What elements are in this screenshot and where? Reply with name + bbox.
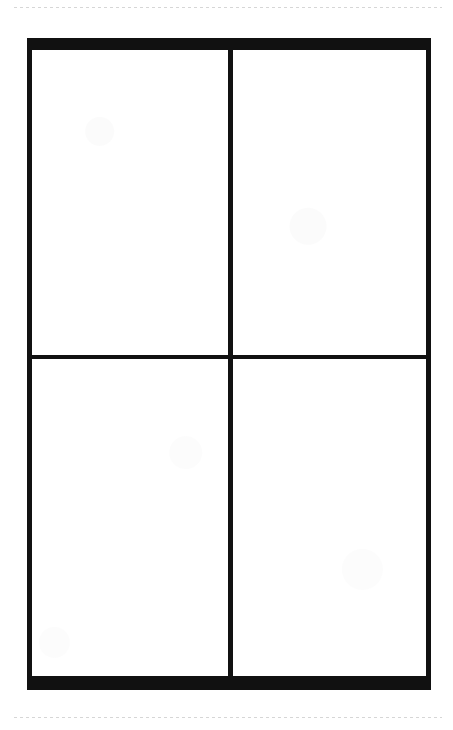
panel-top-left[interactable] [32, 50, 228, 355]
panel-bottom-left[interactable] [32, 359, 228, 676]
scan-guide-top-line [14, 7, 442, 8]
page-canvas: Blank two-by-two grid with heavy black r… [0, 0, 453, 730]
frame-right-border [426, 38, 431, 690]
panel-top-right[interactable] [233, 50, 426, 355]
panel-bottom-right[interactable] [233, 359, 426, 676]
scan-guide-bottom-line [14, 717, 442, 718]
frame-left-border [27, 38, 32, 690]
frame-middle-horizontal-divider [27, 355, 431, 359]
frame-center-vertical-divider [228, 38, 233, 690]
grid-frame [27, 38, 431, 690]
